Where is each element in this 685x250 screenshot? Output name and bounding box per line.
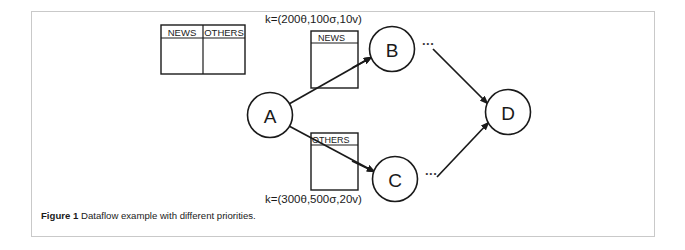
node-b-label: B <box>386 40 399 61</box>
figure-caption-label: Figure 1 <box>41 210 78 221</box>
node-c-label: C <box>388 170 402 191</box>
legend-table-header-others: OTHERS <box>204 27 244 38</box>
node-a-label: A <box>264 106 277 127</box>
priority-label-others: k=(300θ,500σ,20v) <box>265 193 362 205</box>
news-queue-label: NEWS <box>318 33 345 43</box>
node-d[interactable]: D <box>486 90 531 135</box>
node-c[interactable]: C <box>373 157 418 202</box>
ellipsis-after-b-icon: ... <box>422 33 434 48</box>
node-b[interactable]: B <box>370 27 415 72</box>
figure-caption: Figure 1 Dataflow example with different… <box>41 209 601 222</box>
priority-label-news: k=(200θ,100σ,10v) <box>265 13 362 25</box>
figure-root: NEWS OTHERS NEWS OTHERS A <box>0 0 685 250</box>
figure-caption-body: Dataflow example with different prioriti… <box>81 210 256 221</box>
legend-table-header-news: NEWS <box>168 27 197 38</box>
ellipsis-after-c-icon: ... <box>425 163 437 178</box>
others-queue-label: OTHERS <box>312 135 350 145</box>
node-d-label: D <box>501 103 515 124</box>
node-a[interactable]: A <box>248 93 293 138</box>
